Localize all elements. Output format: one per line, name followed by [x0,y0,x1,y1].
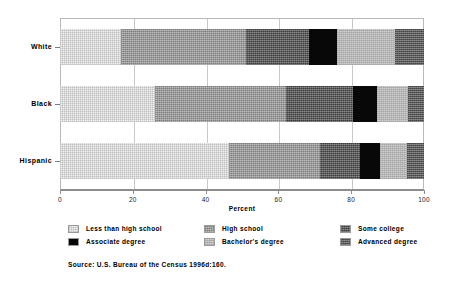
bar-row [60,143,424,179]
bar-segment[interactable] [60,29,121,65]
x-axis-title: Percent [60,205,424,212]
x-axis-tick-label: 20 [118,196,148,203]
bar-segment[interactable] [395,29,424,65]
stacked-bar[interactable] [60,29,424,65]
bar-segment[interactable] [353,86,377,122]
y-axis-tick [55,161,60,162]
x-axis-tick [351,190,352,194]
x-axis-tick-label: 80 [336,196,366,203]
legend-swatch-icon [68,225,79,233]
legend-item-high-school: High school [204,222,340,235]
bar-segment[interactable] [407,143,424,179]
x-axis-tick [424,190,425,194]
y-axis-tick [55,104,60,105]
legend-item-advanced-degree: Advanced degree [340,235,440,248]
legend-label: High school [222,225,263,232]
bar-segment[interactable] [60,86,155,122]
x-axis-tick [278,190,279,194]
y-axis-tick [55,47,60,48]
legend-item-associate-degree: Associate degree [68,235,204,248]
bar-segment[interactable] [121,29,245,65]
bar-segment[interactable] [229,143,320,179]
legend-swatch-icon [204,238,215,246]
legend-label: Advanced degree [358,238,417,245]
bar-segment[interactable] [155,86,286,122]
x-axis-tick-label: 100 [409,196,439,203]
legend-item-bachelors-degree: Bachelor's degree [204,235,340,248]
legend-swatch-icon [340,225,351,233]
chart-legend: Less than high school High school Some c… [68,222,440,248]
category-label-white: White [2,43,52,50]
stacked-bar[interactable] [60,86,424,122]
legend-item-some-college: Some college [340,222,440,235]
legend-label: Some college [358,225,404,232]
legend-item-less-than-high-school: Less than high school [68,222,204,235]
bar-segment[interactable] [60,143,229,179]
bar-segment[interactable] [377,86,408,122]
x-axis-tick [133,190,134,194]
legend-label: Less than high school [86,225,162,232]
bar-segment[interactable] [309,29,337,65]
source-note: Source: U.S. Bureau of the Census 1996d:… [68,261,226,268]
x-axis-tick-label: 40 [191,196,221,203]
legend-swatch-icon [68,238,79,246]
bar-segment[interactable] [408,86,424,122]
stacked-bar-chart-figure: 020406080100 Percent Less than high scho… [0,0,451,281]
bar-segment[interactable] [320,143,360,179]
legend-swatch-icon [340,238,351,246]
x-axis-tick-label: 60 [263,196,293,203]
x-axis-tick-label: 0 [45,196,75,203]
category-label-black: Black [2,100,52,107]
legend-swatch-icon [204,225,215,233]
bar-segment[interactable] [246,29,309,65]
bar-segment[interactable] [360,143,380,179]
legend-label: Associate degree [86,238,145,245]
category-label-hispanic: Hispanic [2,157,52,164]
x-axis: 020406080100 [60,190,424,191]
x-axis-tick [60,190,61,194]
legend-row: Less than high school High school Some c… [68,222,440,235]
x-axis-tick [206,190,207,194]
stacked-bar[interactable] [60,143,424,179]
bar-row [60,86,424,122]
legend-row: Associate degree Bachelor's degree Advan… [68,235,440,248]
legend-label: Bachelor's degree [222,238,284,245]
bar-segment[interactable] [380,143,407,179]
bar-segment[interactable] [286,86,353,122]
bar-segment[interactable] [337,29,395,65]
bar-row [60,29,424,65]
